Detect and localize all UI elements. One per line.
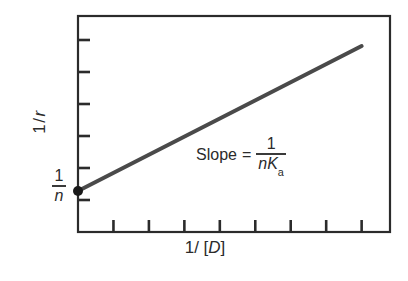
y-axis-label-numerator: 1 (30, 124, 50, 134)
x-axis-label: 1/ [D] (140, 238, 270, 258)
intercept-fraction: 1 n (52, 168, 66, 204)
slope-annotation-equals: = (242, 146, 251, 164)
x-axis-label-numerator: 1 (185, 238, 194, 257)
slope-annotation: Slope = 1 nKa (196, 136, 286, 175)
intercept-denominator: n (53, 187, 66, 204)
x-axis-label-slash: / (194, 238, 199, 257)
slope-denominator: nKa (256, 155, 286, 175)
plot-frame (78, 16, 390, 232)
y-axis-label: 1/r (10, 100, 70, 144)
y-axis-label-slash: / (30, 116, 50, 123)
slope-annotation-prefix: Slope (196, 146, 237, 164)
y-intercept-label: 1 n (44, 168, 74, 204)
slope-fraction: 1 nKa (256, 136, 286, 175)
slope-numerator: 1 (265, 136, 278, 153)
intercept-numerator: 1 (53, 168, 66, 185)
slope-denominator-text: nK (258, 155, 278, 172)
y-intercept-marker (73, 186, 83, 196)
x-axis-label-bracket-close: ] (221, 238, 226, 257)
slope-denominator-subscript: a (278, 166, 284, 178)
y-axis-label-variable: r (30, 110, 50, 116)
figure-container: 1/r 1/ [D] 1 n Slope = 1 nKa (0, 0, 408, 281)
x-axis-label-variable: D (208, 238, 220, 257)
